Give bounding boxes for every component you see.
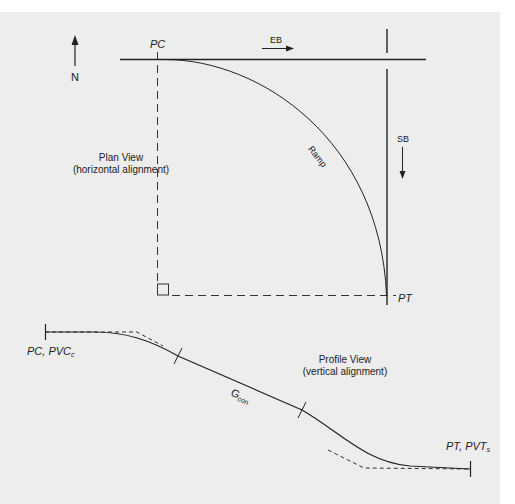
profile-tick-pvc-sag bbox=[298, 402, 306, 418]
profile-end-label-sub: s bbox=[487, 446, 491, 453]
plan-view-title: Plan View bbox=[56, 152, 186, 164]
pt-label: PT bbox=[398, 292, 412, 305]
profile-tick-pvt-crest bbox=[174, 348, 182, 364]
eb-label: EB bbox=[270, 35, 282, 45]
pc-label: PC bbox=[150, 38, 165, 51]
profile-view-subtitle: (vertical alignment) bbox=[270, 366, 420, 378]
ramp-curve bbox=[165, 60, 387, 296]
north-arrow-icon bbox=[72, 35, 79, 66]
profile-start-label-sub: c bbox=[71, 351, 75, 358]
profile-end-label: PT, PVTs bbox=[446, 440, 490, 454]
profile-end-label-main: PT, PVT bbox=[446, 440, 487, 452]
profile-start-label: PC, PVCc bbox=[27, 345, 75, 359]
plan-view-subtitle: (horizontal alignment) bbox=[56, 164, 186, 176]
plan-view-caption: Plan View (horizontal alignment) bbox=[56, 152, 186, 175]
profile-tangent-start bbox=[45, 332, 163, 346]
profile-curve bbox=[45, 332, 470, 469]
north-label: N bbox=[71, 71, 79, 84]
profile-view-caption: Profile View (vertical alignment) bbox=[270, 354, 420, 377]
profile-view-title: Profile View bbox=[270, 354, 420, 366]
profile-start-label-main: PC, PVC bbox=[27, 345, 71, 357]
sb-label: SB bbox=[397, 134, 409, 144]
right-angle-marker bbox=[158, 284, 169, 295]
